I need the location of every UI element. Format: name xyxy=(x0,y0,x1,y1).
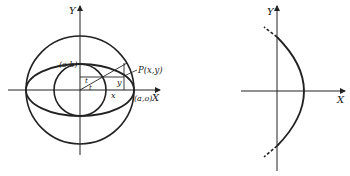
x-axis-label-right: X xyxy=(336,94,345,105)
diagram-canvas: Y X (o,b) (a,o) P(x,y) x y t t Y X xyxy=(0,0,350,176)
y-axis-label-right: Y xyxy=(267,6,275,17)
y-axis-label: Y xyxy=(69,5,77,16)
dashed-extension-bottom xyxy=(264,146,277,157)
point-b-label: (o,b) xyxy=(59,60,78,69)
angle-label-lower: t xyxy=(89,84,92,92)
angle-label-upper: t xyxy=(85,77,88,85)
dashed-extension-top xyxy=(264,27,277,37)
y-segment-label: y xyxy=(116,78,122,87)
point-a-label: (a,o) xyxy=(134,94,152,103)
right-figure xyxy=(241,6,345,171)
x-segment-label: x xyxy=(111,91,116,100)
point-p-label: P(x,y) xyxy=(137,65,163,75)
left-figure xyxy=(8,6,160,155)
